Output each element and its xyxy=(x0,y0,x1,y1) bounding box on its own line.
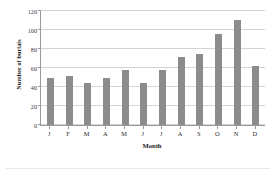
x-axis-tickmark xyxy=(255,126,256,129)
bar-slot xyxy=(134,11,153,125)
x-axis-tickmark xyxy=(180,126,181,129)
bar xyxy=(47,78,54,126)
bar-slot xyxy=(78,11,97,125)
bar xyxy=(252,66,259,125)
x-axis-tick: F xyxy=(59,126,78,140)
x-axis-tick: M xyxy=(115,126,134,140)
bar-series xyxy=(41,11,265,125)
x-axis-tick: J xyxy=(40,126,59,140)
bar xyxy=(159,70,166,125)
bar xyxy=(234,20,241,125)
bar xyxy=(103,78,110,125)
y-axis-tick-labels: 020406080100120 xyxy=(22,11,37,125)
bar-slot xyxy=(190,11,209,125)
bar-slot xyxy=(209,11,228,125)
x-axis-tickmark xyxy=(217,126,218,129)
bar xyxy=(140,83,147,125)
bar-chart-figure: Number of burials 020406080100120 JFMAMJ… xyxy=(0,0,276,176)
x-axis-tickmark xyxy=(236,126,237,129)
y-axis-tick-label: 100 xyxy=(28,27,37,34)
bar-slot xyxy=(60,11,79,125)
bottom-divider xyxy=(6,168,270,169)
bar xyxy=(178,57,185,125)
bar-slot xyxy=(246,11,265,125)
x-axis-title: Month xyxy=(40,142,264,149)
y-axis-tick-label: 60 xyxy=(31,65,37,72)
y-axis-tick-label: 80 xyxy=(31,46,37,53)
x-axis-tickmark xyxy=(161,126,162,129)
x-axis-tick: N xyxy=(227,126,246,140)
bar-slot xyxy=(172,11,191,125)
y-axis-title-text: Number of burials xyxy=(15,39,22,89)
y-axis-tick-label: 20 xyxy=(31,103,37,110)
x-axis-tickmark xyxy=(199,126,200,129)
bar-slot xyxy=(153,11,172,125)
x-axis-tick-label: N xyxy=(227,130,246,137)
x-axis-tickmark xyxy=(143,126,144,129)
bar xyxy=(215,34,222,125)
x-axis-tick-label: J xyxy=(40,130,59,137)
x-axis-tick: J xyxy=(133,126,152,140)
x-axis-tick: D xyxy=(245,126,264,140)
x-axis-tick: A xyxy=(96,126,115,140)
bar-slot xyxy=(97,11,116,125)
x-axis-tickmark xyxy=(49,126,50,129)
x-axis-tick-label: D xyxy=(245,130,264,137)
x-axis-tickmark xyxy=(87,126,88,129)
bar-slot xyxy=(41,11,60,125)
x-axis-tick-label: J xyxy=(152,130,171,137)
x-axis-tick-label: S xyxy=(189,130,208,137)
y-axis-tick-label: 0 xyxy=(34,122,37,129)
x-axis-tickmark xyxy=(68,126,69,129)
x-axis-tick: O xyxy=(208,126,227,140)
x-axis-tick-labels: JFMAMJJASOND xyxy=(40,126,264,140)
bar-slot xyxy=(228,11,247,125)
x-axis-tick: A xyxy=(171,126,190,140)
x-axis-tick-label: F xyxy=(59,130,78,137)
bar xyxy=(196,54,203,125)
bar-slot xyxy=(116,11,135,125)
x-axis-tick: J xyxy=(152,126,171,140)
x-axis-tick-label: J xyxy=(133,130,152,137)
bar xyxy=(84,83,91,125)
y-axis-tick-label: 40 xyxy=(31,84,37,91)
bar xyxy=(66,76,73,125)
x-axis-tick-label: M xyxy=(115,130,134,137)
x-axis-tick-label: O xyxy=(208,130,227,137)
x-axis-tickmark xyxy=(124,126,125,129)
plot-area xyxy=(40,11,265,126)
x-axis-tick-label: M xyxy=(77,130,96,137)
bar xyxy=(122,70,129,125)
x-axis-tick: M xyxy=(77,126,96,140)
x-axis-tick-label: A xyxy=(171,130,190,137)
y-axis-tick-label: 120 xyxy=(28,8,37,15)
x-axis-tick: S xyxy=(189,126,208,140)
x-axis-tick-label: A xyxy=(96,130,115,137)
x-axis-tickmark xyxy=(105,126,106,129)
